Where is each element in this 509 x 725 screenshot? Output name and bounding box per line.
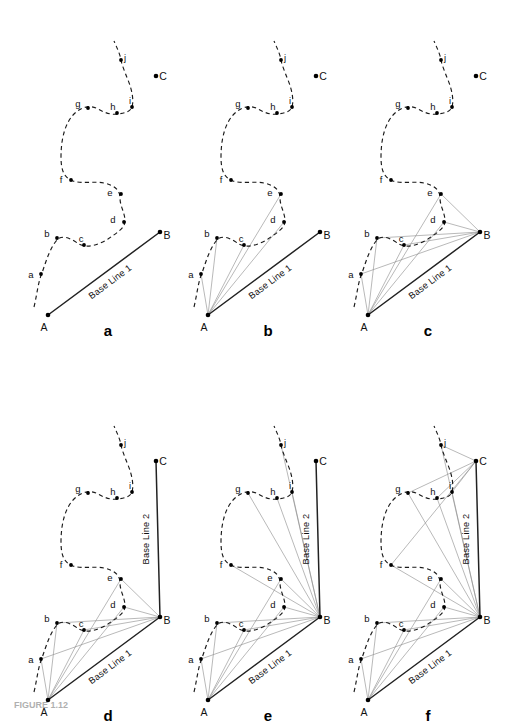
traverse-curve (354, 426, 453, 692)
ray-A-d (368, 222, 444, 315)
station-label-c: c (239, 618, 244, 629)
station-label-j: j (443, 52, 446, 63)
station-dot-j (119, 58, 123, 62)
panel-letter-e: e (264, 707, 272, 724)
ray-B-b (377, 617, 480, 623)
ray-group (201, 194, 284, 315)
station-label-c: c (79, 618, 84, 629)
station-dot-d (282, 220, 286, 224)
station-dot-c (82, 243, 86, 247)
ray-C-j (441, 445, 476, 461)
station-label-h: h (270, 486, 275, 497)
traverse-curve (354, 41, 453, 307)
panel-letter-b: b (263, 322, 272, 339)
node-label-a: A (200, 321, 207, 333)
station-dot-e (439, 577, 443, 581)
node-dot-a (206, 313, 211, 318)
station-label-b: b (204, 613, 209, 624)
station-dot-c (402, 243, 406, 247)
baseline-2-label: Base Line 2 (141, 514, 151, 565)
panel-e: Base Line 1Base Line 2abcdefghijABCe (168, 395, 336, 725)
station-dot-i (290, 105, 294, 109)
traverse-curve (194, 426, 293, 692)
station-dot-b (375, 236, 379, 240)
baseline-1 (48, 232, 160, 315)
station-label-e: e (267, 572, 272, 583)
ray-A-e (208, 579, 281, 700)
ray-A-d (208, 222, 284, 315)
station-label-j: j (283, 52, 286, 63)
node-dot-c (314, 459, 319, 464)
station-label-j: j (123, 437, 126, 448)
station-label-b: b (204, 228, 209, 239)
station-label-i: i (449, 480, 451, 491)
ray-group (361, 194, 480, 315)
station-label-d: d (430, 214, 435, 225)
station-label-j: j (443, 437, 446, 448)
station-label-c: c (399, 618, 404, 629)
station-dot-i (130, 490, 134, 494)
station-dot-a (39, 272, 43, 276)
station-dot-g (246, 491, 250, 495)
baseline-2 (316, 461, 320, 617)
node-dot-b (158, 230, 163, 235)
station-dot-f (389, 563, 393, 567)
panel-c-canvas: Base Line 1abcdefghijABCc (328, 10, 496, 355)
station-label-b: b (364, 613, 369, 624)
station-dot-h (435, 111, 439, 115)
node-dot-a (366, 313, 371, 318)
station-label-i: i (129, 480, 131, 491)
traverse-curve (34, 41, 133, 307)
baseline-2-label: Base Line 2 (461, 514, 471, 565)
station-dot-c (82, 628, 86, 632)
station-dot-f (69, 178, 73, 182)
baseline-1 (208, 232, 320, 315)
station-dot-b (375, 621, 379, 625)
station-label-a: a (188, 269, 194, 280)
station-dot-a (199, 657, 203, 661)
panel-letter-a: a (104, 322, 113, 339)
station-label-h: h (110, 101, 115, 112)
node-dot-b (318, 615, 323, 620)
panel-d-canvas: Base Line 1Base Line 2abcdefghijABCd (8, 395, 176, 725)
station-label-c: c (399, 233, 404, 244)
station-dot-e (279, 192, 283, 196)
station-dot-a (359, 272, 363, 276)
node-label-c: C (159, 70, 167, 82)
ray-C-i (452, 461, 476, 492)
ray-A-d (368, 607, 444, 700)
node-dot-c (154, 459, 159, 464)
ray-A-c (208, 630, 244, 700)
station-label-j: j (123, 52, 126, 63)
node-dot-c (154, 74, 159, 79)
station-label-i: i (449, 95, 451, 106)
ray-B-b (377, 232, 480, 238)
station-dot-b (215, 621, 219, 625)
station-label-f: f (380, 174, 383, 185)
station-label-g: g (235, 98, 240, 109)
station-label-i: i (289, 480, 291, 491)
station-label-h: h (110, 486, 115, 497)
ray-A-a (361, 659, 368, 700)
station-dot-g (246, 106, 250, 110)
baseline-2 (156, 461, 160, 617)
station-dot-d (442, 220, 446, 224)
station-label-e: e (427, 572, 432, 583)
station-label-a: a (28, 269, 34, 280)
panel-b-canvas: Base Line 1abcdefghijABCb (168, 10, 336, 355)
station-dot-d (122, 220, 126, 224)
station-label-f: f (220, 174, 223, 185)
node-dot-c (474, 459, 479, 464)
station-label-d: d (110, 214, 115, 225)
station-label-j: j (283, 437, 286, 448)
ray-B-b (57, 617, 160, 623)
station-dot-f (389, 178, 393, 182)
station-label-d: d (110, 599, 115, 610)
panel-b: Base Line 1abcdefghijABCb (168, 10, 336, 355)
station-label-f: f (220, 559, 223, 570)
node-label-b: B (483, 229, 490, 241)
station-dot-f (229, 178, 233, 182)
station-label-b: b (364, 228, 369, 239)
ray-A-d (208, 607, 284, 700)
panel-f: Base Line 1Base Line 2abcdefghijABCf (328, 395, 496, 725)
